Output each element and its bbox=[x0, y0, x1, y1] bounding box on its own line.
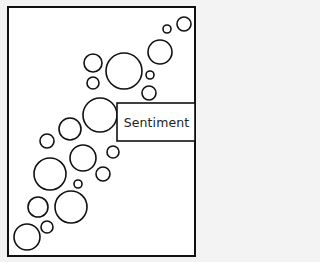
sentiment-label: Sentiment bbox=[118, 104, 195, 141]
